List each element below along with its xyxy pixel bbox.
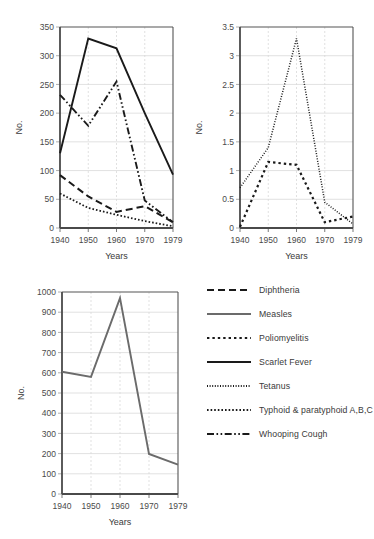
chart-measles-svg: 0100200300400500600700800900100019401950… [0,268,200,536]
x-tick-label: 1960 [111,501,130,511]
y-tick-label: 50 [45,194,55,204]
x-tick-label: 1950 [82,501,101,511]
y-tick-label: 400 [42,408,56,418]
x-axis-title: Years [105,251,128,261]
y-tick-label: 2 [229,108,234,118]
y-tick-label: 2.5 [222,80,234,90]
y-tick-label: 100 [40,166,54,176]
y-tick-label: 600 [42,368,56,378]
legend-line-swatch [206,355,252,369]
legend-line-swatch [206,331,252,345]
x-tick-label: 1979 [169,501,188,511]
y-tick-label: 0.5 [222,194,234,204]
series-line [60,38,173,174]
legend-item: Whooping Cough [206,422,374,446]
legend-item: Tetanus [206,374,374,398]
x-tick-label: 1940 [51,235,70,245]
legend-item-label: Scarlet Fever [259,357,312,367]
legend-line-svg [206,403,252,417]
x-axis-title: Years [285,251,308,261]
legend-line-svg [206,427,252,441]
legend-line-swatch [206,379,252,393]
y-tick-label: 250 [40,80,54,90]
x-tick-label: 1970 [135,235,154,245]
legend-item: Diphtheria [206,278,374,302]
y-tick-label: 1.5 [222,137,234,147]
y-tick-label: 100 [42,469,56,479]
y-tick-label: 800 [42,328,56,338]
legend-line-svg [206,307,252,321]
y-tick-label: 3 [229,51,234,61]
y-tick-label: 0 [49,223,54,233]
chart-scarlet-fever: 0501001502002503003501940195019601970197… [0,4,190,266]
legend-item: Scarlet Fever [206,350,374,374]
legend-item: Poliomyelitis [206,326,374,350]
legend-line-swatch [206,307,252,321]
y-tick-label: 700 [42,348,56,358]
x-tick-label: 1950 [79,235,98,245]
y-tick-label: 900 [42,307,56,317]
y-tick-label: 350 [40,22,54,32]
y-axis-title: No. [16,386,26,400]
legend-item: Typhoid & paratyphoid A,B,C [206,398,374,422]
legend-line-swatch [206,403,252,417]
x-tick-label: 1960 [107,235,126,245]
legend-item: Measles [206,302,374,326]
y-tick-label: 0 [229,223,234,233]
x-tick-label: 1950 [259,235,278,245]
x-axis-title: Years [109,517,132,527]
legend-line-svg [206,379,252,393]
y-axis-title: No. [14,120,24,134]
chart-measles: 0100200300400500600700800900100019401950… [0,268,200,536]
legend-line-swatch [206,283,252,297]
legend-item-label: Tetanus [259,381,290,391]
y-tick-label: 150 [40,137,54,147]
y-tick-label: 3.5 [222,22,234,32]
chart-scarlet-fever-svg: 0501001502002503003501940195019601970197… [0,4,190,266]
legend-item-label: Diphtheria [259,285,300,295]
y-axis-title: No. [194,120,204,134]
y-tick-label: 200 [40,108,54,118]
legend-item-label: Poliomyelitis [259,333,309,343]
legend-item-label: Measles [259,309,292,319]
y-tick-label: 500 [42,388,56,398]
y-tick-label: 1000 [37,287,56,297]
y-tick-label: 300 [40,51,54,61]
x-tick-label: 1940 [53,501,72,511]
y-tick-label: 300 [42,429,56,439]
y-tick-label: 200 [42,449,56,459]
chart-legend: DiphtheriaMeaslesPoliomyelitisScarlet Fe… [206,278,374,458]
legend-line-svg [206,355,252,369]
x-tick-label: 1970 [140,501,159,511]
x-tick-label: 1960 [287,235,306,245]
legend-line-svg [206,283,252,297]
x-tick-label: 1979 [344,235,363,245]
x-tick-label: 1979 [164,235,183,245]
legend-line-svg [206,331,252,345]
legend-item-label: Whooping Cough [259,429,328,439]
chart-tetanus-poliomyelitis: 00.511.522.533.519401950196019701979No.Y… [190,4,374,266]
x-tick-label: 1970 [315,235,334,245]
chart-tetanus-poliomyelitis-svg: 00.511.522.533.519401950196019701979No.Y… [190,4,374,266]
legend-item-label: Typhoid & paratyphoid A,B,C [259,405,373,415]
x-tick-label: 1940 [231,235,250,245]
legend-line-swatch [206,427,252,441]
y-tick-label: 0 [51,489,56,499]
y-tick-label: 1 [229,166,234,176]
